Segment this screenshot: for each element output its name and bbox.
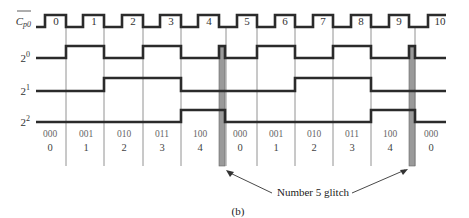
svg-text:000: 000 bbox=[43, 129, 58, 139]
svg-text:10: 10 bbox=[435, 15, 447, 27]
svg-text:0: 0 bbox=[237, 142, 242, 153]
svg-text:8: 8 bbox=[358, 15, 364, 27]
svg-text:4: 4 bbox=[206, 15, 212, 27]
clock-waveform bbox=[36, 15, 446, 27]
svg-text:0: 0 bbox=[47, 142, 52, 153]
svg-text:2: 2 bbox=[130, 15, 136, 27]
svg-text:010: 010 bbox=[307, 129, 322, 139]
svg-text:001: 001 bbox=[269, 129, 284, 139]
svg-text:4: 4 bbox=[197, 142, 203, 153]
svg-text:1: 1 bbox=[273, 142, 278, 153]
svg-text:3: 3 bbox=[159, 142, 164, 153]
bit1-waveform bbox=[36, 78, 446, 91]
bit0-label: 20 bbox=[21, 50, 31, 64]
arrow-head-left bbox=[226, 170, 234, 177]
clock-label: Cp0 bbox=[16, 15, 31, 29]
svg-text:000: 000 bbox=[424, 129, 439, 139]
bit1-label: 21 bbox=[21, 83, 31, 97]
glitch-annotation: Number 5 glitch bbox=[226, 169, 408, 198]
svg-text:7: 7 bbox=[320, 15, 326, 27]
svg-text:100: 100 bbox=[383, 129, 398, 139]
svg-text:001: 001 bbox=[79, 129, 94, 139]
svg-text:5: 5 bbox=[244, 15, 250, 27]
svg-text:9: 9 bbox=[396, 15, 402, 27]
svg-text:2: 2 bbox=[121, 142, 126, 153]
svg-text:0: 0 bbox=[428, 142, 433, 153]
glitch-label: Number 5 glitch bbox=[277, 186, 350, 198]
binary-state-labels: 000 001 010 011 100 000 001 010 011 100 … bbox=[43, 129, 439, 139]
svg-text:000: 000 bbox=[233, 129, 248, 139]
arrow-head-right bbox=[400, 169, 408, 175]
bit0-waveform bbox=[36, 46, 446, 58]
svg-text:011: 011 bbox=[345, 129, 359, 139]
figure-caption: (b) bbox=[232, 205, 245, 218]
signal-labels: Cp0 20 21 22 bbox=[16, 11, 31, 128]
svg-text:1: 1 bbox=[83, 142, 88, 153]
svg-text:3: 3 bbox=[168, 15, 174, 27]
decimal-state-labels: 0 1 2 3 4 0 1 2 3 4 0 bbox=[47, 142, 433, 153]
svg-text:4: 4 bbox=[387, 142, 393, 153]
svg-text:0: 0 bbox=[53, 15, 59, 27]
svg-text:011: 011 bbox=[155, 129, 169, 139]
bit2-label: 22 bbox=[21, 114, 31, 128]
svg-text:3: 3 bbox=[349, 142, 354, 153]
svg-text:2: 2 bbox=[311, 142, 316, 153]
svg-text:010: 010 bbox=[117, 129, 132, 139]
svg-text:6: 6 bbox=[282, 15, 288, 27]
clock-pulse-labels: 0 1 2 3 4 5 6 7 8 9 10 bbox=[53, 15, 446, 27]
glitch-bar-1 bbox=[219, 47, 225, 166]
svg-text:100: 100 bbox=[193, 129, 208, 139]
glitch-bar-2 bbox=[409, 47, 415, 166]
bit2-waveform bbox=[36, 110, 446, 122]
timing-diagram: 0 1 2 3 4 5 6 7 8 9 10 Cp0 20 21 22 000 … bbox=[0, 0, 469, 218]
svg-text:1: 1 bbox=[91, 15, 97, 27]
